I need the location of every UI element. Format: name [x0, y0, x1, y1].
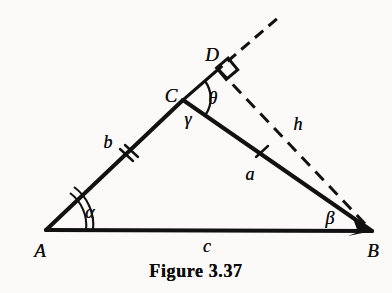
angle-label-alpha: α [85, 203, 94, 221]
angle-label-theta: θ [209, 89, 218, 107]
figure-container: A B C D b a c h α β γ θ Figure 3.37 [0, 0, 392, 293]
cd-extension-group [183, 17, 279, 100]
vertex-label-C: C [165, 86, 178, 105]
side-a-line [183, 100, 372, 231]
altitude-h-dashed-line [219, 70, 370, 229]
side-label-a: a [246, 165, 255, 183]
side-label-c: c [203, 237, 211, 255]
triangle-outline [46, 100, 372, 231]
angle-label-beta: β [326, 209, 335, 227]
side-c-line [46, 230, 372, 231]
side-label-h: h [294, 115, 303, 133]
cd-extension-dashed-line [214, 17, 279, 73]
side-b-line [46, 100, 183, 230]
vertex-label-D: D [205, 45, 219, 64]
vertex-label-B: B [367, 241, 379, 260]
side-label-b: b [104, 133, 113, 151]
vertex-label-A: A [34, 241, 46, 260]
angle-label-gamma: γ [184, 110, 191, 128]
figure-caption: Figure 3.37 [149, 261, 242, 282]
triangle-diagram [0, 0, 392, 293]
